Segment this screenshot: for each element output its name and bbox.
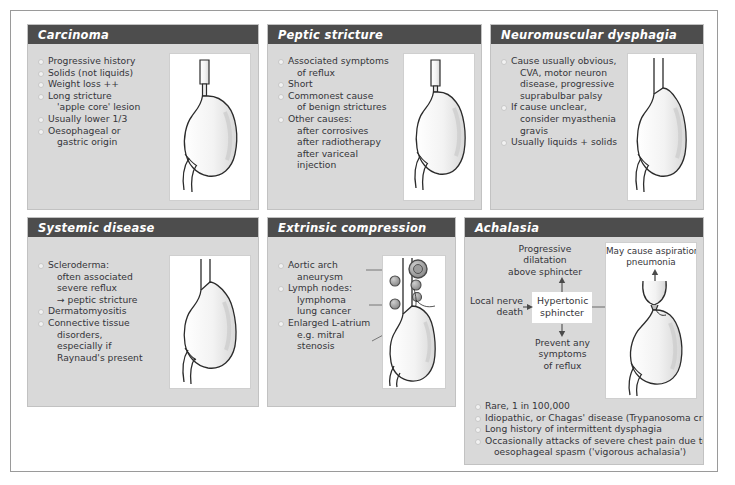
stomach-dilated-oesophagus-svg (170, 256, 250, 388)
list-item: Oesophageal or (37, 125, 162, 137)
list-item: injection (277, 159, 397, 171)
stomach-peptic-stricture-svg (404, 54, 474, 200)
list-item: consider myasthenia (500, 113, 625, 125)
list-item: Long stricture (37, 90, 162, 102)
list-item: If cause unclear, (500, 101, 625, 113)
list-item: Dermatomyositis (37, 305, 162, 317)
list-item: gastric origin (37, 136, 162, 148)
figure-carcinoma (169, 53, 251, 201)
list-item: Associated symptoms (277, 55, 397, 67)
panel-title-systemic-disease: Systemic disease (28, 218, 258, 237)
list-item: often associated (37, 271, 162, 283)
stomach-normal-oesophagus-svg (628, 54, 696, 200)
panel-body-carcinoma: Progressive history Solids (not liquids)… (28, 44, 258, 209)
list-item: Commonest cause (277, 90, 397, 102)
panel-peptic-stricture: Peptic stricture Associated symptoms of … (267, 24, 482, 210)
list-item: 'apple core' lesion (37, 101, 162, 113)
bullet-list-peptic-stricture: Associated symptoms of reflux Short Comm… (277, 55, 397, 171)
list-item: severe reflux (37, 282, 162, 294)
list-item: Solids (not liquids) (37, 67, 162, 79)
panel-body-achalasia: Progressive dilatation above sphincter L… (465, 237, 703, 464)
panel-title-extrinsic-compression: Extrinsic compression (268, 218, 455, 237)
outer-frame: Carcinoma Progressive history Solids (no… (10, 10, 718, 472)
stomach-achalasia-birds-beak-svg (606, 269, 696, 397)
list-item: Long history of intermittent dysphagia (474, 423, 702, 435)
panel-body-systemic-disease: Scleroderma: often associated severe ref… (28, 237, 258, 406)
panel-title-neuromuscular-dysphagia: Neuromuscular dysphagia (491, 25, 703, 44)
figure-peptic-stricture (403, 53, 475, 201)
bullet-list-carcinoma: Progressive history Solids (not liquids)… (37, 55, 162, 148)
list-item: Weight loss ++ (37, 78, 162, 90)
figure-extrinsic-compression (382, 255, 446, 389)
list-item: after radiotherapy (277, 136, 397, 148)
figure-systemic-disease (169, 255, 251, 389)
panel-extrinsic-compression: Extrinsic compression Aortic arch aneury… (267, 217, 456, 407)
list-item: Short (277, 78, 397, 90)
list-item: of reflux (277, 67, 397, 79)
panel-carcinoma: Carcinoma Progressive history Solids (no… (27, 24, 259, 210)
panel-body-peptic-stricture: Associated symptoms of reflux Short Comm… (268, 44, 481, 209)
panel-title-peptic-stricture: Peptic stricture (268, 25, 481, 44)
list-item: Connective tissue (37, 317, 162, 329)
list-item: gravis (500, 125, 625, 137)
bullet-list-systemic-disease: Scleroderma: often associated severe ref… (37, 259, 162, 363)
panel-title-carcinoma: Carcinoma (28, 25, 258, 44)
chart-page: Carcinoma Progressive history Solids (no… (0, 0, 735, 485)
bullet-list-neuromuscular-dysphagia: Cause usually obvious, CVA, motor neuron… (500, 55, 625, 148)
list-item: especially if (37, 340, 162, 352)
list-item: Usually liquids + solids (500, 136, 625, 148)
panel-body-neuromuscular-dysphagia: Cause usually obvious, CVA, motor neuron… (491, 44, 703, 209)
panel-systemic-disease: Systemic disease Scleroderma: often asso… (27, 217, 259, 407)
list-item: → peptic stricture (37, 294, 162, 306)
list-item: after variceal (277, 148, 397, 160)
list-item: disorders, (37, 329, 162, 341)
list-item: CVA, motor neuron (500, 67, 625, 79)
list-item: after corrosives (277, 125, 397, 137)
list-item: Occasionally attacks of severe chest pai… (474, 435, 702, 447)
list-item: Idiopathic, or Chagas' disease (Trypanos… (474, 412, 702, 424)
stomach-carcinoma-stricture-svg (170, 54, 250, 200)
list-item: Raynaud's present (37, 352, 162, 364)
bullet-list-achalasia: Rare, 1 in 100,000 Idiopathic, or Chagas… (474, 400, 702, 458)
list-item: suprabulbar palsy (500, 90, 625, 102)
figure-achalasia: May cause aspiration pneumonia (605, 242, 697, 399)
achalasia-figure-caption: May cause aspiration pneumonia (606, 246, 696, 268)
stomach-extrinsic-compression-nodes-svg (383, 256, 445, 388)
list-item: Scleroderma: (37, 259, 162, 271)
figure-neuromuscular-dysphagia (627, 53, 697, 201)
list-item: Usually lower 1/3 (37, 113, 162, 125)
panel-achalasia: Achalasia Progressive dilatation above s… (464, 217, 704, 465)
list-item: disease, progressive (500, 78, 625, 90)
list-item: Progressive history (37, 55, 162, 67)
list-item: Rare, 1 in 100,000 (474, 400, 702, 412)
list-item: of benign strictures (277, 101, 397, 113)
list-item: Other causes: (277, 113, 397, 125)
list-item: oesophageal spasm ('vigorous achalasia') (474, 446, 702, 458)
panel-neuromuscular-dysphagia: Neuromuscular dysphagia Cause usually ob… (490, 24, 704, 210)
panel-body-extrinsic-compression: Aortic arch aneurysm Lymph nodes: lympho… (268, 237, 455, 406)
panel-title-achalasia: Achalasia (465, 218, 703, 237)
list-item: Cause usually obvious, (500, 55, 625, 67)
